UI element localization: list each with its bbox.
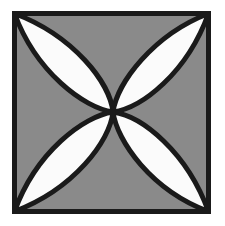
quatrefoil-figure: Quatrefoil four-petal rosette tile A squ… (0, 0, 225, 226)
quatrefoil-svg (0, 0, 225, 226)
